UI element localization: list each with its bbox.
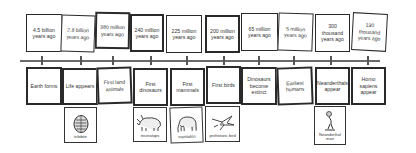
time-box-3: 380 million years ago — [95, 12, 131, 50]
time-label: 225 million years ago — [168, 28, 200, 41]
mastodon-icon — [174, 114, 199, 135]
time-label: 300 thousand years ago — [317, 23, 348, 42]
event-box-3: First land animals — [96, 66, 132, 104]
time-box-9: 300 thousand years ago — [315, 14, 350, 52]
event-label: First dinosaurs — [136, 81, 165, 94]
timeline-tick — [258, 56, 260, 65]
time-box-6: 200 million years ago — [205, 15, 240, 53]
trilobite-picture: trilobite — [64, 107, 97, 143]
time-label: 2.8 billion years ago — [63, 27, 93, 41]
event-box-4: First dinosaurs — [133, 68, 168, 106]
picture-caption: triceratops — [141, 134, 160, 139]
triceratops-icon — [136, 113, 164, 133]
event-box-6: First birds — [206, 66, 241, 104]
event-label: Dinosaurs become extinct — [244, 76, 274, 95]
picture-caption: mastodon — [178, 135, 196, 140]
time-box-2: 2.8 billion years ago — [60, 14, 95, 52]
time-box-8: 5 million years ago — [277, 12, 313, 51]
timeline-axis — [20, 60, 380, 62]
time-box-10: 130 thousand years ago — [351, 12, 388, 52]
prehistoric-bird-picture: prehistoric bird — [205, 106, 240, 142]
timeline-tick — [223, 56, 225, 65]
event-box-2: Life appears — [62, 68, 98, 105]
event-label: Earth forms — [31, 83, 58, 89]
event-box-7: Dinosaurs become extinct — [241, 67, 277, 105]
time-box-5: 225 million years ago — [166, 15, 202, 53]
neanderthal-picture: Neanderthal man — [314, 106, 346, 145]
timeline-tick — [41, 56, 43, 65]
time-box-1: 4.5 billion years ago — [26, 14, 62, 52]
event-box-1: Earth forms — [26, 67, 62, 105]
time-box-7: 65 million years ago — [241, 13, 278, 51]
time-label: 240 million years ago — [133, 27, 161, 40]
triceratops-picture: triceratops — [133, 107, 167, 142]
event-label: Homo sapiens appear — [354, 76, 383, 95]
timeline-tick — [367, 56, 369, 65]
timeline-tick — [293, 56, 295, 65]
time-label: 200 million years ago — [208, 28, 237, 41]
event-label: First birds — [212, 82, 235, 88]
event-box-5: First mammals — [170, 68, 205, 106]
timeline-tick — [150, 56, 152, 65]
event-label: Earliest humans — [280, 79, 310, 93]
timeline-tick — [112, 56, 114, 65]
event-label: First land animals — [100, 79, 129, 93]
event-box-10: Homo sapiens appear — [351, 67, 386, 105]
timeline-tick — [330, 56, 332, 65]
time-label: 380 million years ago — [98, 24, 127, 37]
trilobite-icon — [72, 114, 90, 134]
event-label: First mammals — [173, 81, 202, 94]
event-box-8: Earliest humans — [276, 66, 313, 105]
picture-caption: prehistoric bird — [209, 134, 235, 139]
time-label: 130 thousand years ago — [354, 22, 386, 43]
picture-caption: trilobite — [74, 135, 87, 140]
picture-caption: Neanderthal man — [315, 133, 345, 142]
time-label: 5 million years ago — [280, 25, 311, 39]
time-label: 65 million years ago — [243, 26, 276, 39]
time-box-4: 240 million years ago — [130, 14, 164, 52]
neanderthal-icon — [322, 110, 338, 132]
prehistoric-bird-icon — [210, 113, 236, 133]
time-label: 4.5 billion years ago — [28, 27, 60, 40]
timeline-tick — [186, 56, 188, 65]
event-label: Neanderthals appear — [317, 80, 348, 93]
mastodon-picture: mastodon — [169, 106, 203, 143]
timeline-tick — [80, 56, 82, 65]
event-box-9: Neanderthals appear — [315, 67, 350, 105]
event-label: Life appears — [66, 83, 95, 89]
